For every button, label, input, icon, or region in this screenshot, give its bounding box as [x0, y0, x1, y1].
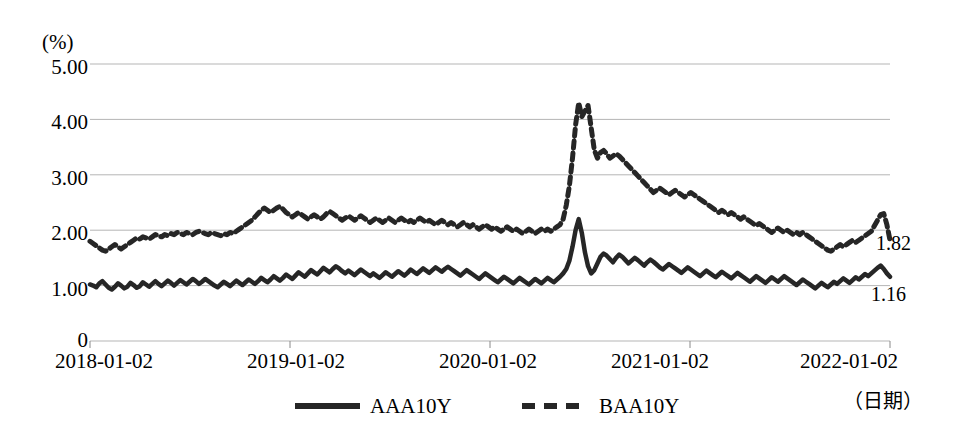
x-tick-label-2019: 2019-01-02: [247, 349, 345, 374]
y-axis-unit-label: (%): [42, 30, 73, 55]
x-axis-title: （日期）: [843, 385, 923, 414]
chart-container: (%) 5.00 4.00 3.00 2.00 1.00 0 2018-01-0…: [0, 0, 957, 445]
chart-plot-area: [0, 0, 957, 445]
y-tick-label-5: 5.00: [36, 55, 88, 80]
series-lines: [90, 103, 890, 290]
gridlines: [90, 64, 890, 341]
y-tick-label-2: 2.00: [36, 221, 88, 246]
x-tick-label-2018: 2018-01-02: [55, 349, 153, 374]
x-tick-label-2021: 2021-01-02: [611, 349, 709, 374]
end-value-label-baa10y: 1.82: [876, 232, 911, 255]
y-tick-label-4: 4.00: [36, 110, 88, 135]
legend-label-baa10y: BAA10Y: [599, 394, 680, 419]
series-line-baa10y: [90, 103, 890, 251]
x-axis-ticks: [90, 341, 890, 348]
y-tick-label-1: 1.00: [36, 277, 88, 302]
legend-label-aaa10y: AAA10Y: [370, 394, 452, 419]
x-tick-label-2020: 2020-01-02: [439, 349, 537, 374]
x-tick-label-2022: 2022-01-02: [800, 349, 898, 374]
end-value-label-aaa10y: 1.16: [871, 283, 906, 306]
y-tick-label-3: 3.00: [36, 166, 88, 191]
